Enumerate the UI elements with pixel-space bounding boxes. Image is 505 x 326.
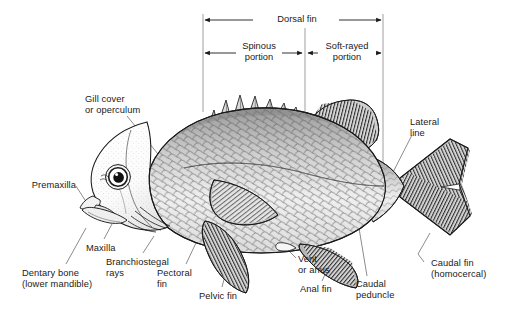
label-lateral-line: Lateral line [410, 117, 439, 139]
label-pectoral-fin: Pectoral fin [157, 268, 192, 290]
label-caudal-peduncle: Caudal peduncle [356, 279, 394, 301]
label-premaxilla: Premaxilla [0, 180, 76, 191]
eye [106, 165, 131, 190]
label-pelvic-fin: Pelvic fin [199, 291, 237, 302]
bracket-label-dorsal-fin: Dorsal fin [255, 14, 339, 25]
bracket-label-spinous-portion: Spinous portion [236, 41, 282, 63]
pupil [113, 172, 124, 183]
label-dentary-bone: Dentary bone (lower mandible) [22, 268, 92, 290]
label-caudal-fin: Caudal fin (homocercal) [431, 258, 486, 280]
leader-caudal-fin [418, 233, 430, 262]
bracket-label-soft-rayed-portion: Soft-rayed portion [318, 41, 376, 63]
leader-dentary-bone [66, 228, 86, 264]
eye-highlight [115, 173, 118, 176]
label-gill-cover: Gill cover or operculum [85, 94, 140, 116]
label-vent-or-anus: Vent or anus [298, 254, 330, 276]
leader-branchiostegal-rays [143, 236, 154, 253]
leader-maxilla [104, 224, 112, 239]
fish-anatomy-diagram: Dorsal fin Spinous portion Soft-rayed po… [0, 0, 505, 326]
label-anal-fin: Anal fin [300, 284, 332, 295]
label-maxilla: Maxilla [86, 243, 116, 254]
